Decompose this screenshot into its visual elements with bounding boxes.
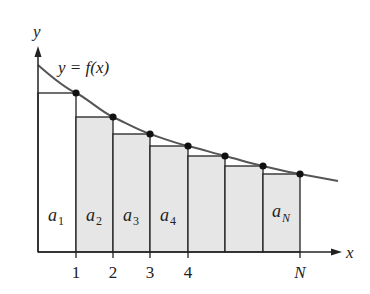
rect-a5 — [188, 156, 225, 252]
point-dot — [221, 152, 228, 159]
curve-label: y = f(x) — [56, 58, 109, 77]
svg-text:3: 3 — [133, 214, 139, 228]
x-axis-label: x — [345, 243, 354, 262]
y-axis-label: y — [31, 22, 41, 41]
tick-label-1: 1 — [72, 263, 81, 282]
svg-text:1: 1 — [58, 214, 64, 228]
point-dot — [146, 130, 153, 137]
svg-text:a: a — [272, 201, 281, 221]
tick-label-N: N — [293, 263, 307, 282]
svg-text:a: a — [160, 205, 169, 225]
svg-text:N: N — [281, 211, 291, 225]
rect-a1 — [38, 93, 76, 252]
point-dot — [109, 113, 116, 120]
point-dot — [184, 142, 191, 149]
riemann-sum-diagram: y x y = f(x) 1 2 3 4 N a 1 a 2 a 3 a 4 a… — [0, 0, 370, 294]
rectangles — [38, 93, 300, 252]
point-dot — [72, 89, 79, 96]
svg-text:a: a — [86, 205, 95, 225]
svg-text:4: 4 — [170, 214, 176, 228]
rect-a3 — [113, 134, 150, 252]
y-axis-arrow-icon — [35, 46, 42, 57]
svg-text:2: 2 — [96, 214, 102, 228]
rect-a2 — [76, 117, 113, 252]
rect-a6 — [225, 166, 263, 252]
x-ticks — [76, 252, 300, 258]
x-axis-arrow-icon — [331, 249, 342, 256]
rect-a4 — [150, 146, 188, 252]
point-dot — [259, 162, 266, 169]
svg-text:a: a — [123, 205, 132, 225]
tick-label-3: 3 — [146, 263, 155, 282]
tick-label-4: 4 — [184, 263, 193, 282]
svg-text:a: a — [48, 205, 57, 225]
tick-label-2: 2 — [109, 263, 118, 282]
point-dot — [296, 170, 303, 177]
